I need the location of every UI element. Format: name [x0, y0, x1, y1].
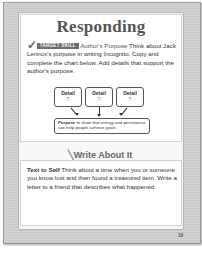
target-skill-paragraph: ✓ TARGET SKILL Author's Purpose Think ab…	[27, 41, 177, 75]
detail-value: ?	[98, 96, 101, 102]
detail-box-2: Detail ?	[85, 87, 113, 107]
skill-name: Author's Purpose	[80, 42, 127, 49]
detail-value: ?	[67, 96, 70, 102]
detail-value: ?	[129, 96, 132, 102]
detail-box-1: Detail ?	[54, 87, 82, 107]
text-to-self-label: Text to Self	[27, 166, 60, 173]
write-about-it-heading: ╲Write About It	[40, 150, 160, 160]
write-about-it-title: Write About It	[74, 150, 133, 160]
arrow-down-icon	[97, 114, 101, 117]
write-about-it-card: Text to Self Think about a time when you…	[20, 160, 182, 226]
detail-box-3: Detail ?	[116, 87, 144, 107]
write-about-it-paragraph: Text to Self Think about a time when you…	[27, 166, 177, 191]
checkmark-icon: ✓	[27, 41, 37, 49]
arrow-down-icon	[119, 113, 123, 116]
pencil-icon: ╲	[68, 150, 73, 160]
target-skill-badge: TARGET SKILL	[37, 43, 79, 49]
arrow-down-icon	[75, 113, 79, 116]
responding-card: Responding ✓ TARGET SKILL Author's Purpo…	[20, 14, 182, 142]
page-number: 19	[178, 233, 183, 238]
purpose-box: Purpose to show that energy and persiste…	[54, 118, 150, 134]
page-title: Responding	[21, 17, 181, 37]
